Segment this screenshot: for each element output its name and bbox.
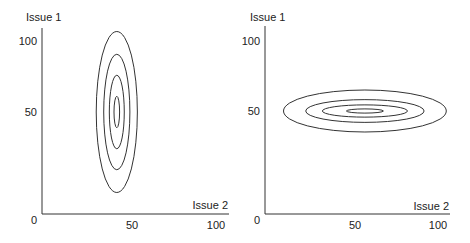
contour-ellipse-2 (104, 54, 130, 170)
contour-diagram: Issue 1 Issue 2 100 50 0 50 100 Issue 1 … (0, 0, 470, 243)
y-tick-100: 100 (242, 35, 260, 47)
contour-ellipse-1 (284, 90, 447, 132)
x-tick-0: 0 (31, 214, 37, 226)
contour-ellipse-3 (109, 75, 124, 149)
panel-horizontal-preference: Issue 1 Issue 2 100 50 0 50 100 (242, 11, 450, 231)
x-tick-100: 100 (207, 219, 225, 231)
y-tick-100: 100 (19, 35, 37, 47)
x-tick-0: 0 (254, 214, 260, 226)
x-axis-label: Issue 2 (414, 200, 449, 212)
contour-ellipse-1 (96, 32, 137, 193)
x-tick-50: 50 (349, 219, 361, 231)
x-tick-50: 50 (126, 219, 138, 231)
panel-vertical-preference: Issue 1 Issue 2 100 50 0 50 100 (19, 11, 229, 231)
y-axis-label: Issue 1 (26, 11, 61, 23)
x-tick-100: 100 (429, 219, 447, 231)
y-tick-50: 50 (248, 105, 260, 117)
contour-group (284, 90, 447, 132)
x-axis-label: Issue 2 (193, 199, 228, 211)
contour-ellipse-4 (346, 109, 383, 113)
y-tick-50: 50 (25, 106, 37, 118)
contour-ellipse-4 (114, 96, 120, 128)
contour-ellipse-3 (322, 105, 407, 117)
contour-group (96, 32, 137, 193)
y-axis-label: Issue 1 (250, 11, 285, 23)
contour-ellipse-2 (306, 100, 424, 123)
